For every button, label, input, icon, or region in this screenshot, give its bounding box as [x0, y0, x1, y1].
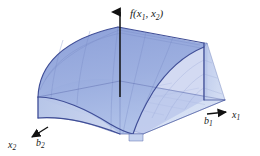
svg-text:x1: x1: [231, 109, 240, 122]
svg-text:f(x1, x2): f(x1, x2): [130, 7, 164, 22]
label-paren-close: ): [159, 7, 164, 20]
vertical-axis-label: f(x1, x2): [130, 7, 164, 22]
front-corner-tab: [129, 134, 143, 141]
svg-text:x2: x2: [7, 139, 16, 152]
x1-axis-line: [207, 112, 226, 114]
b2-label-sub: 2: [41, 141, 45, 150]
svg-text:b2: b2: [36, 137, 45, 150]
x2-bound-label: b2: [36, 137, 45, 150]
x1-bound-label: b1: [204, 115, 213, 128]
right-side-wall-group: [204, 43, 225, 100]
x2-axis-line: [32, 127, 48, 137]
svg-text:b1: b1: [204, 115, 213, 128]
x1-label-sub: 1: [236, 113, 240, 122]
surface-plot-figure: f(x1, x2) x1 b1 x2 b2: [0, 0, 260, 156]
x2-label-sub: 2: [12, 143, 16, 152]
b1-label-sub: 1: [209, 119, 213, 128]
surface-plot-canvas: f(x1, x2) x1 b1 x2 b2: [0, 0, 260, 156]
x2-axis-label: x2: [7, 139, 16, 152]
x1-axis-label: x1: [231, 109, 240, 122]
